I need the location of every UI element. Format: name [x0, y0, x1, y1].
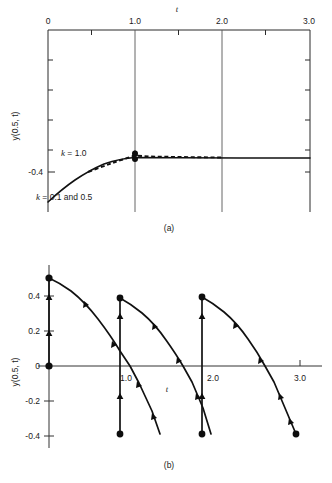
panel-b-ytick-label-4: -0.4	[25, 431, 40, 441]
panel-a-annotation-k2: k = 0.1 and 0.5	[36, 192, 92, 202]
panel-a-ytick-label-0: -0.4	[28, 167, 43, 177]
panel-a-annotation-k2-value: = 0.1 and 0.5	[40, 192, 92, 202]
panel-b-ytick-label-1: 0.2	[28, 326, 40, 336]
panel-b: 0.4 0.2 0 -0.2 -0.4 y(0.5, t) 1.0 2.0 3.…	[10, 265, 322, 470]
panel-b-circle-jump1-bottom	[117, 431, 124, 438]
panel-b-ytick-label-2: 0	[35, 361, 40, 371]
panel-a-caption: (a)	[164, 223, 175, 233]
panel-b-yaxis-title: y(0.5, t)	[10, 357, 20, 386]
panel-b-xtick-label-0: 1.0	[120, 373, 132, 383]
panel-b-circle-start-top	[45, 274, 52, 281]
panel-a-xtick-2: 2.0	[216, 16, 228, 26]
panel-a: 0 1.0 2.0 3.0 t	[10, 4, 315, 233]
panel-a-annotation-k1: k = 1.0	[61, 148, 87, 158]
panel-b-circle-jump2-bottom	[199, 431, 206, 438]
panel-a-xaxis-title: t	[176, 4, 179, 14]
panel-b-circle-origin	[45, 362, 52, 369]
panel-b-triangle-jump1-2	[117, 393, 124, 399]
panel-a-xtick-0: 0	[46, 16, 51, 26]
panel-b-ytick-label-0: 0.4	[28, 291, 40, 301]
panel-b-xtick-label-1: 2.0	[207, 373, 219, 383]
panel-a-xtick-1: 1.0	[129, 16, 141, 26]
figure-svg: 0 1.0 2.0 3.0 t	[0, 0, 332, 483]
panel-b-circle-jump1-top	[117, 295, 124, 302]
panel-b-triangle-curve3-3	[278, 393, 284, 400]
panel-a-xtick-3: 3.0	[303, 16, 315, 26]
panel-b-circle-jump2-top	[199, 294, 206, 301]
panel-a-annotation-k1-value: = 1.0	[65, 148, 87, 158]
panel-b-triangle-jump2-1	[199, 313, 206, 319]
panel-b-triangle-curve1-4	[151, 413, 157, 420]
panel-b-triangle-curve3-4	[288, 418, 294, 425]
panel-a-yaxis-title: y(0.5, t)	[10, 111, 20, 140]
panel-b-curve-segment-1	[49, 278, 160, 434]
panel-b-ytick-label-3: -0.2	[25, 396, 40, 406]
panel-b-xaxis-title: t	[166, 384, 169, 394]
panel-b-circle-end	[293, 431, 300, 438]
panel-b-triangle-axis-1	[46, 294, 53, 300]
panel-b-xtick-label-2: 3.0	[294, 373, 306, 383]
panel-a-marker-lower	[132, 156, 138, 162]
panel-b-triangle-jump1-1	[117, 313, 124, 319]
panel-b-caption: (b)	[164, 460, 175, 470]
figure-container: 0 1.0 2.0 3.0 t	[0, 0, 332, 483]
